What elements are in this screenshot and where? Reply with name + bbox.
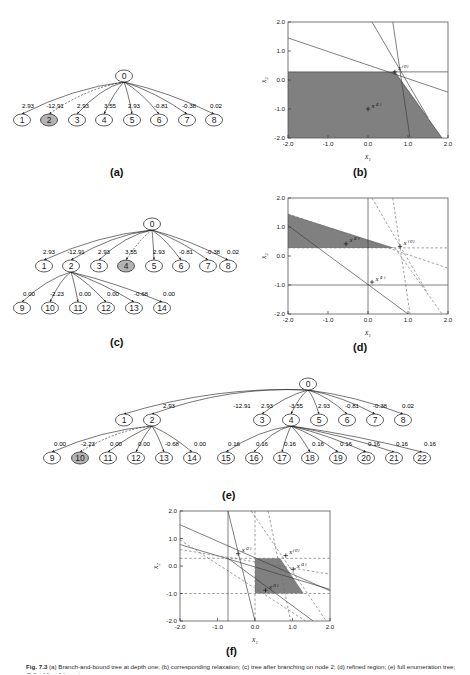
svg-text:17: 17	[277, 453, 287, 463]
tree-node-3: 3	[254, 414, 271, 426]
svg-text:11: 11	[104, 453, 113, 463]
constraint-line	[393, 198, 410, 314]
tree-edge	[124, 82, 159, 114]
y-tick-label: 2.0	[276, 194, 285, 201]
x-tick-label: 1.0	[404, 316, 413, 323]
edge-label-14: 0.00	[163, 290, 176, 297]
svg-text:9: 9	[20, 303, 25, 313]
panel-label-c: (c)	[110, 336, 123, 348]
edge-label-5: 2.93	[153, 248, 166, 255]
edge-label-18: 0.16	[312, 440, 325, 447]
tree-edge	[124, 82, 132, 114]
point-marker	[284, 553, 288, 557]
point-label: x⁽¹⁾	[375, 275, 386, 282]
point-label: x⁽³⁾	[296, 562, 307, 569]
y-tick-label: 1.0	[276, 47, 285, 54]
svg-text:8: 8	[401, 415, 406, 425]
tree-edge	[71, 272, 162, 302]
tree-node-7: 7	[179, 114, 196, 126]
tree-edge	[80, 426, 152, 452]
tree-node-12: 12	[128, 452, 145, 464]
tree-node-4: 4	[118, 260, 135, 272]
panel-f-plot: -2.0-2.0-1.0-1.00.00.01.01.02.02.0x₁x₂x⁽…	[140, 505, 340, 645]
x-tick-label: -2.0	[175, 623, 186, 630]
edge-label-5: 2.93	[318, 402, 331, 409]
tree-node-1: 1	[116, 414, 133, 426]
tree-edge	[22, 82, 124, 114]
point-label: x⁽¹⁾	[268, 583, 279, 590]
tree-edge	[71, 272, 78, 302]
svg-text:7: 7	[373, 415, 378, 425]
y-tick-label: 1.0	[168, 535, 177, 542]
x-tick-label: 2.0	[444, 316, 453, 323]
edge-label-2: -12.91	[46, 102, 64, 109]
tree-node-8: 8	[220, 260, 237, 272]
tree-node-1: 1	[36, 260, 53, 272]
edge-label-1: 2.93	[43, 248, 56, 255]
y-tick-label: -2.0	[274, 134, 285, 141]
edge-label-3: 2.93	[77, 102, 90, 109]
tree-node-11: 11	[70, 302, 87, 314]
x-axis-label: x₁	[251, 635, 258, 644]
panel-c-tree: 2.93-12.912.933.552.93-0.81-0.380.020.00…	[4, 212, 232, 324]
tree-node-10: 10	[72, 452, 89, 464]
tree-edge	[44, 230, 152, 260]
tree-edge	[71, 230, 152, 260]
panel-label-f: (f)	[226, 645, 237, 657]
edge-label-8: 0.02	[210, 102, 223, 109]
x-tick-label: 0.0	[364, 316, 373, 323]
tree-node-7: 7	[200, 260, 217, 272]
tree-edge	[50, 272, 71, 302]
tree-edge	[152, 230, 181, 260]
tree-node-4: 4	[283, 414, 300, 426]
y-tick-label: -2.0	[274, 310, 285, 317]
tree-edge	[99, 230, 152, 260]
tree-edge	[282, 426, 291, 452]
svg-text:12: 12	[131, 453, 141, 463]
svg-text:4: 4	[102, 115, 107, 125]
edge-label-1: 2.93	[22, 102, 35, 109]
edge-label-3: 2.93	[261, 402, 274, 409]
edge-label-16: 0.16	[256, 440, 269, 447]
x-tick-label: 1.0	[288, 623, 297, 630]
tree-node-5: 5	[146, 260, 163, 272]
tree-edge	[52, 426, 152, 452]
tree-edge	[152, 426, 164, 452]
edge-label-9: 0.00	[54, 440, 67, 447]
edge-label-7: -0.38	[206, 248, 221, 255]
y-tick-label: -1.0	[274, 281, 285, 288]
figure-caption: Fig. 7.3 (a) Branch-and-bound tree at de…	[26, 663, 456, 674]
svg-text:13: 13	[159, 453, 169, 463]
svg-text:10: 10	[45, 303, 55, 313]
svg-text:13: 13	[129, 303, 139, 313]
point-label: x⁽⁰⁾	[397, 64, 409, 71]
x-axis-label: x₁	[364, 152, 371, 161]
y-axis-label: x₂	[259, 253, 268, 260]
point-marker	[291, 567, 295, 571]
edge-label-3: 2.93	[98, 248, 111, 255]
y-tick-label: 0.0	[276, 76, 285, 83]
svg-text:7: 7	[206, 261, 211, 271]
tree-node-22: 22	[414, 452, 431, 464]
svg-text:12: 12	[101, 303, 111, 313]
tree-node-6: 6	[151, 114, 168, 126]
point-label: x⁽¹⁾	[371, 102, 382, 109]
svg-text:3: 3	[97, 261, 102, 271]
tree-node-13: 13	[156, 452, 173, 464]
tree-node-15: 15	[218, 452, 235, 464]
x-tick-label: -2.0	[283, 316, 294, 323]
edge-label-11: 0.00	[79, 290, 92, 297]
y-tick-label: 1.0	[276, 223, 285, 230]
panel-label-b: (b)	[353, 166, 367, 178]
edge-label-15: 0.16	[228, 440, 241, 447]
tree-node-2: 2	[63, 260, 80, 272]
caption-text: (a) Branch-and-bound tree at depth one; …	[26, 663, 455, 674]
svg-text:5: 5	[130, 115, 135, 125]
tree-edge	[152, 230, 154, 260]
tree-node-8: 8	[395, 414, 412, 426]
svg-text:10: 10	[75, 453, 85, 463]
tree-node-17: 17	[274, 452, 291, 464]
edge-label-9: 0.00	[23, 290, 36, 297]
point-marker	[370, 280, 374, 284]
panel-d-plot: -2.0-2.0-1.0-1.00.00.01.01.02.02.0x₁x₂x⁽…	[246, 190, 460, 336]
